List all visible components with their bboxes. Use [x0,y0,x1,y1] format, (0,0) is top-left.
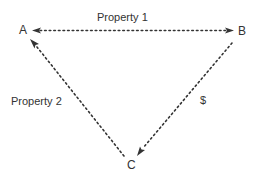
node-a-label: A [19,24,27,36]
edge-a-b-label: Property 1 [97,11,148,23]
diagram-edges [0,0,259,178]
node-b-label: B [238,25,246,37]
triangle-diagram: A B C Property 1 Property 2 $ [0,0,259,178]
edge-c-a-label: Property 2 [11,95,62,107]
edge-b-c [143,43,232,148]
arrowhead-to-c-icon [137,147,145,157]
node-c-label: C [127,159,136,171]
edge-b-c-label: $ [200,94,206,106]
